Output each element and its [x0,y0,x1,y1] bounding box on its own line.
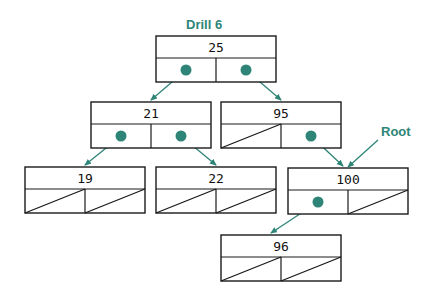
tree-node-22: 22 [156,167,276,213]
pointer-dot-icon [176,131,187,142]
node-value: 96 [273,239,289,254]
node-value: 19 [77,171,93,186]
pointer-dot-icon [181,65,192,76]
node-value: 21 [143,106,159,121]
tree-node-96: 96 [221,235,341,281]
root-pointer-arrow [348,140,378,167]
tree-node-19: 19 [25,167,145,213]
tree-node-21: 21 [91,102,211,148]
pointer-dot-icon [313,197,324,208]
node-value: 95 [273,106,289,121]
node-value: 22 [208,171,224,186]
pointer-dot-icon [306,131,317,142]
tree-node-95: 95 [221,102,341,148]
pointer-dot-icon [116,131,127,142]
tree-node-100: 100 [288,168,408,214]
node-value: 25 [208,40,224,55]
pointer-dot-icon [241,65,252,76]
binary-search-tree-diagram: 252195192210096 [0,0,435,299]
tree-node-25: 25 [156,36,276,82]
nodes-layer: 252195192210096 [25,36,408,281]
node-value: 100 [336,172,359,187]
